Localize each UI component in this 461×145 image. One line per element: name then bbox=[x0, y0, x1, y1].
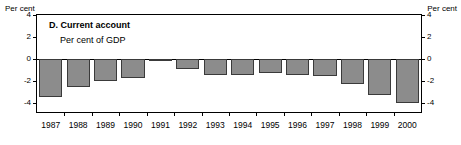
y-tick-label: 4 bbox=[27, 11, 31, 19]
y-axis-unit-label-right: Per cent bbox=[427, 4, 457, 13]
x-tick-label: 1999 bbox=[370, 120, 389, 130]
y-tick bbox=[421, 81, 425, 82]
y-tick-label: 4 bbox=[427, 11, 431, 19]
bar bbox=[259, 59, 282, 73]
x-tick-label: 1987 bbox=[41, 120, 60, 130]
bar bbox=[149, 59, 172, 61]
y-tick-label: 0 bbox=[27, 55, 31, 63]
bar-slot bbox=[64, 15, 91, 112]
x-tick bbox=[284, 112, 285, 116]
x-tick bbox=[366, 112, 367, 116]
bar bbox=[368, 59, 391, 95]
bar-slot bbox=[119, 15, 146, 112]
x-tick-label: 1989 bbox=[96, 120, 115, 130]
y-tick bbox=[421, 103, 425, 104]
bar-slot bbox=[394, 15, 421, 112]
x-tick bbox=[119, 112, 120, 116]
bar bbox=[204, 59, 227, 74]
x-tick-label: 1997 bbox=[316, 120, 335, 130]
bar bbox=[176, 59, 199, 69]
x-tick-label: 1994 bbox=[233, 120, 252, 130]
bar-slot bbox=[37, 15, 64, 112]
x-tick bbox=[174, 112, 175, 116]
x-tick bbox=[256, 112, 257, 116]
bar bbox=[286, 59, 309, 74]
plot-frame: D. Current account Per cent of GDP 420-2… bbox=[36, 14, 422, 113]
x-tick-label: 1992 bbox=[178, 120, 197, 130]
x-tick-label: 1993 bbox=[206, 120, 225, 130]
x-tick-label: 1990 bbox=[124, 120, 143, 130]
y-tick bbox=[33, 15, 37, 16]
y-tick bbox=[33, 59, 37, 60]
bar-slot bbox=[202, 15, 229, 112]
plot-area: D. Current account Per cent of GDP 420-2… bbox=[37, 15, 421, 112]
y-tick-label: -4 bbox=[427, 99, 434, 107]
x-tick-label: 1991 bbox=[151, 120, 170, 130]
y-tick bbox=[33, 103, 37, 104]
y-tick-label: 2 bbox=[427, 33, 431, 41]
bar bbox=[313, 59, 336, 76]
x-tick-label: 1996 bbox=[288, 120, 307, 130]
bar-slot bbox=[311, 15, 338, 112]
chart-figure: Per cent Per cent D. Current account Per… bbox=[0, 0, 461, 145]
bar bbox=[94, 59, 117, 81]
x-tick bbox=[311, 112, 312, 116]
bar bbox=[341, 59, 364, 84]
bar bbox=[231, 59, 254, 74]
y-tick bbox=[33, 81, 37, 82]
bar bbox=[396, 59, 419, 103]
bar-slot bbox=[229, 15, 256, 112]
bar-slot bbox=[147, 15, 174, 112]
x-tick-label: 1995 bbox=[261, 120, 280, 130]
y-tick bbox=[33, 37, 37, 38]
y-tick bbox=[421, 59, 425, 60]
y-tick bbox=[421, 15, 425, 16]
x-tick-label: 1988 bbox=[69, 120, 88, 130]
bar-slot bbox=[174, 15, 201, 112]
y-tick-label: 2 bbox=[27, 33, 31, 41]
bar-series bbox=[37, 15, 421, 112]
bar bbox=[39, 59, 62, 96]
x-tick bbox=[64, 112, 65, 116]
bar-slot bbox=[256, 15, 283, 112]
bar-slot bbox=[366, 15, 393, 112]
y-tick bbox=[421, 37, 425, 38]
y-tick-label: -2 bbox=[24, 77, 31, 85]
x-tick bbox=[339, 112, 340, 116]
x-tick bbox=[92, 112, 93, 116]
y-tick-label: -4 bbox=[24, 99, 31, 107]
y-tick-label: -2 bbox=[427, 77, 434, 85]
x-tick-label: 2000 bbox=[398, 120, 417, 130]
x-tick bbox=[202, 112, 203, 116]
x-tick bbox=[147, 112, 148, 116]
bar bbox=[121, 59, 144, 78]
y-tick-label: 0 bbox=[427, 55, 431, 63]
bar bbox=[67, 59, 90, 87]
bar-slot bbox=[284, 15, 311, 112]
bar-slot bbox=[339, 15, 366, 112]
x-tick bbox=[229, 112, 230, 116]
bar-slot bbox=[92, 15, 119, 112]
x-tick bbox=[394, 112, 395, 116]
x-tick-label: 1998 bbox=[343, 120, 362, 130]
